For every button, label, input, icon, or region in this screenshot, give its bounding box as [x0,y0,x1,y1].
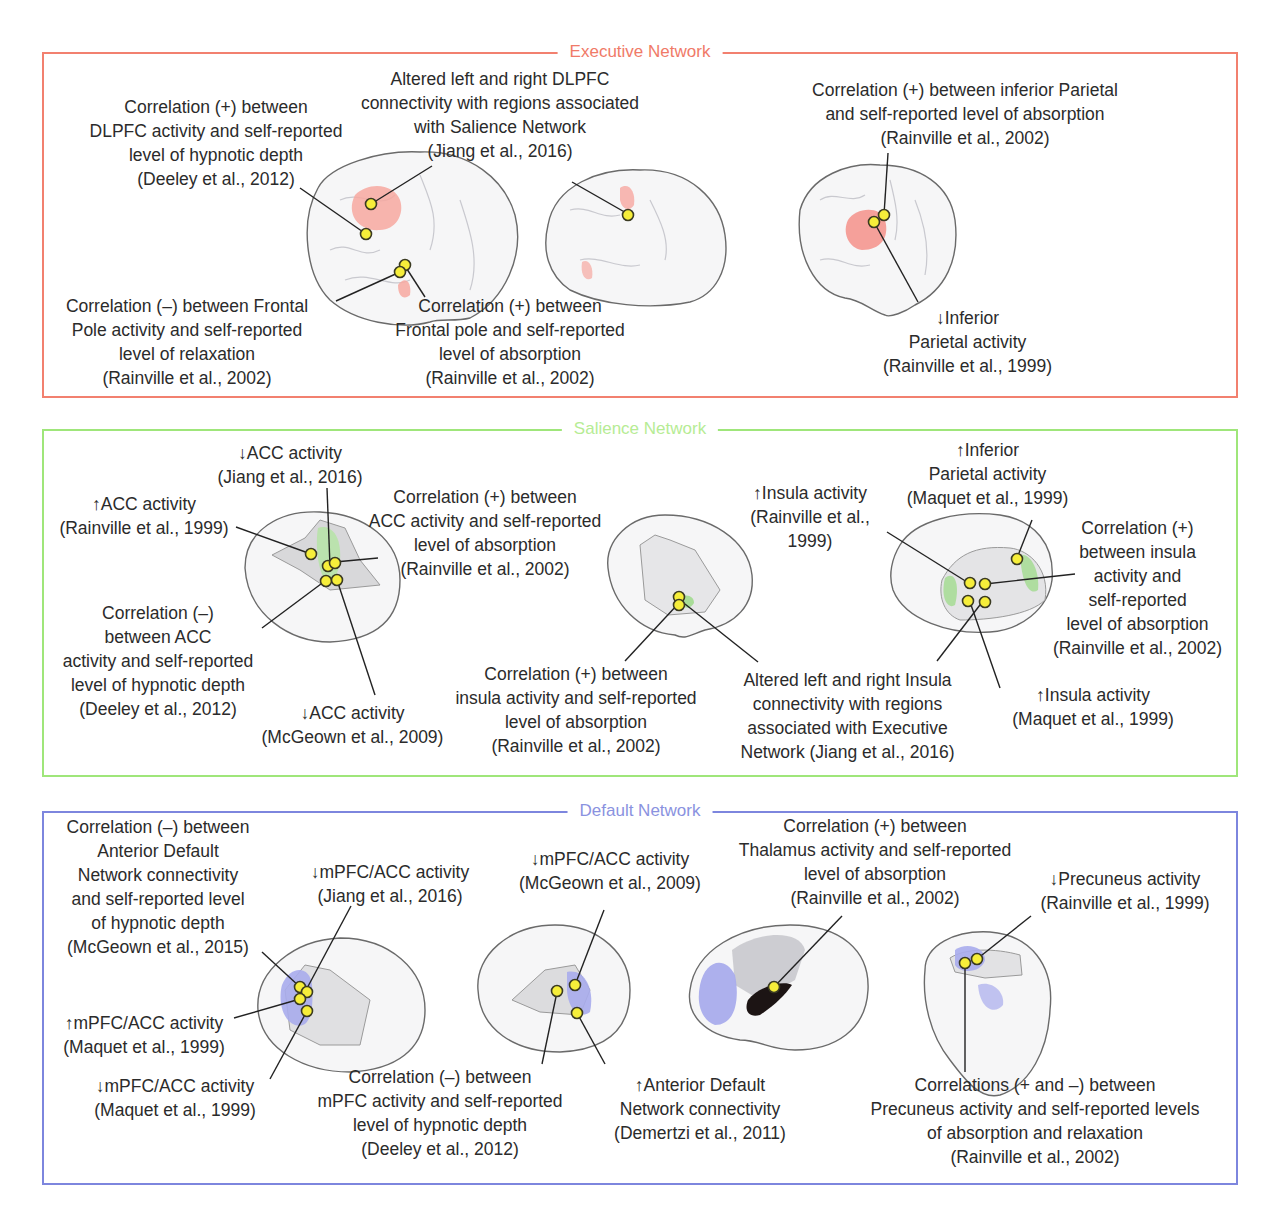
label-dlpfc-connectivity: Altered left and right DLPFC connectivit… [335,67,665,163]
label-anterior-dmn-increase: ↑Anterior Default Network connectivity (… [595,1073,805,1145]
label-acc-increase-rainville: ↑ACC activity (Rainville et al., 1999) [44,492,244,540]
default-network-title: Default Network [568,800,713,822]
label-anterior-dmn-connectivity: Correlation (–) between Anterior Default… [48,815,268,959]
label-acc-decrease-mcgeown: ↓ACC activity (McGeown et al., 2009) [245,701,460,749]
label-insula-absorption-middle: Correlation (+) between insula activity … [436,662,716,758]
label-mpfc-decrease-mcgeown: ↓mPFC/ACC activity (McGeown et al., 2009… [500,847,720,895]
salience-network-title: Salience Network [562,418,718,440]
label-acc-hypnotic-depth: Correlation (–) between ACC activity and… [48,601,268,721]
label-inferior-parietal-increase: ↑Inferior Parietal activity (Maquet et a… [895,438,1080,510]
label-insula-increase-rainville: ↑Insula activity (Rainville et al., 1999… [740,481,880,553]
label-precuneus-decrease: ↓Precuneus activity (Rainville et al., 1… [1025,867,1225,915]
label-mpfc-hypnotic-depth: Correlation (–) between mPFC activity an… [295,1065,585,1161]
label-mpfc-increase-maquet: ↑mPFC/ACC activity (Maquet et al., 1999) [44,1011,244,1059]
label-mpfc-decrease-maquet: ↓mPFC/ACC activity (Maquet et al., 1999) [75,1074,275,1122]
label-frontal-pole-absorption: Correlation (+) between Frontal pole and… [370,294,650,390]
label-acc-decrease-jiang: ↓ACC activity (Jiang et al., 2016) [200,441,380,489]
executive-network-title: Executive Network [558,41,723,63]
label-mpfc-decrease-jiang: ↓mPFC/ACC activity (Jiang et al., 2016) [290,860,490,908]
label-inferior-parietal-absorption: Correlation (+) between inferior Parieta… [780,78,1150,150]
label-insula-connectivity: Altered left and right Insula connectivi… [725,668,970,764]
label-frontal-pole-relaxation: Correlation (–) between Frontal Pole act… [42,294,332,390]
label-inferior-parietal-decrease: ↓Inferior Parietal activity (Rainville e… [860,306,1075,378]
label-insula-increase-maquet: ↑Insula activity (Maquet et al., 1999) [998,683,1188,731]
label-thalamus-absorption: Correlation (+) between Thalamus activit… [715,814,1035,910]
label-dlpfc-hypnotic-depth: Correlation (+) between DLPFC activity a… [86,95,346,191]
label-insula-absorption-right: Correlation (+) between insula activity … [1040,516,1235,660]
label-acc-absorption: Correlation (+) between ACC activity and… [350,485,620,581]
label-precuneus-correlations: Correlations (+ and –) between Precuneus… [845,1073,1225,1169]
